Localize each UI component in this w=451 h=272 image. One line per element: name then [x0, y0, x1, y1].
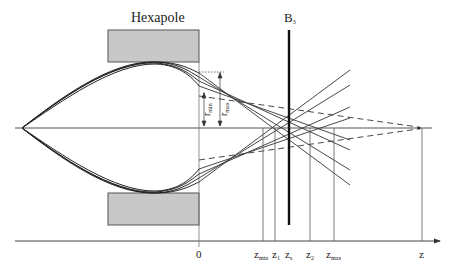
z-axis-arrow-icon: [434, 239, 441, 244]
radius-indicators: [199, 72, 224, 126]
tick-zs: zs: [285, 248, 293, 261]
rmin-label: rmin: [201, 103, 213, 116]
hexapole-focusing-diagram: rmin rmax Hexapole B3 0 zmin z1 zs z2 zm…: [0, 0, 451, 272]
tick-zmax: zmax: [326, 248, 341, 261]
hexapole-bottom-magnet: [108, 193, 199, 225]
trajectories-upper: [22, 62, 199, 128]
hexapole-top-magnet: [108, 30, 199, 62]
z-axis-label: z: [419, 248, 424, 260]
trajectories-lower: [22, 128, 199, 193]
tick-zmin: zmin: [254, 248, 268, 261]
focal-point: [418, 127, 421, 130]
b3-title: B3: [284, 10, 296, 25]
tick-z1: z1: [272, 248, 280, 261]
z-marker-lines: [263, 128, 422, 241]
hexapole-title: Hexapole: [131, 10, 185, 25]
origin-label: 0: [196, 248, 202, 260]
tick-z2: z2: [306, 248, 314, 261]
